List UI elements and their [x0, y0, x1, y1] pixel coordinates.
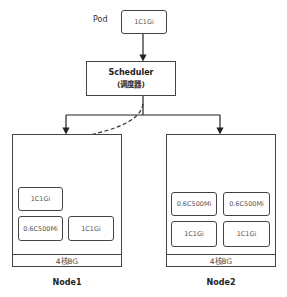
scheduler-box: Scheduler (调度器): [86, 61, 176, 96]
node2-pod: 0.6C500Mi: [223, 192, 270, 216]
node2-pod: 0.6C500Mi: [171, 192, 217, 216]
scheduler-subtitle: (调度器): [117, 78, 145, 89]
node2-label: Node2: [166, 278, 276, 287]
node1-pod: 1C1Gi: [68, 216, 114, 241]
node1-label: Node1: [12, 278, 122, 287]
node2-pod: 1C1Gi: [223, 221, 270, 247]
pod-label: Pod: [93, 15, 108, 24]
node1-capacity: 4核8G: [12, 254, 122, 267]
node2-capacity: 4核8G: [166, 254, 276, 267]
node1-pod: 1C1Gi: [18, 187, 63, 211]
incoming-pod: 1C1Gi: [121, 10, 167, 34]
node2-pod: 1C1Gi: [171, 221, 217, 247]
scheduler-title: Scheduler: [108, 68, 153, 77]
node1-pod: 0.6C500Mi: [18, 216, 63, 241]
